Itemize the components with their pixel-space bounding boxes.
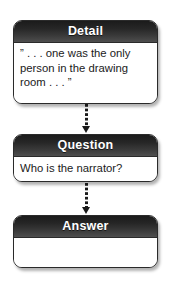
detail-text-line-1: ” . . . one was the only xyxy=(20,46,151,61)
connector-detail-to-question-arrow-icon xyxy=(82,104,91,134)
detail-text-line-2: person in the drawing xyxy=(20,61,151,76)
connector-question-to-answer-arrow-icon xyxy=(82,183,91,215)
detail-card-header: Detail xyxy=(14,21,157,43)
question-text-line-1: Who is the narrator? xyxy=(20,161,151,176)
connector-dotted-stem xyxy=(85,104,88,126)
connector-arrowhead-down-icon xyxy=(82,126,90,133)
connector-arrowhead-down-icon xyxy=(82,207,90,214)
connector-dotted-stem xyxy=(85,183,88,207)
question-card: Question Who is the narrator? xyxy=(13,134,158,182)
detail-card-body: ” . . . one was the only person in the d… xyxy=(14,43,157,104)
answer-card-header: Answer xyxy=(14,216,157,238)
flow-diagram: Detail ” . . . one was the only person i… xyxy=(0,0,173,289)
detail-card: Detail ” . . . one was the only person i… xyxy=(13,20,158,104)
question-card-header: Question xyxy=(14,135,157,157)
question-card-body: Who is the narrator? xyxy=(14,157,157,182)
detail-text-line-3: room . . . ” xyxy=(20,75,151,90)
answer-card-body[interactable] xyxy=(14,238,157,268)
answer-card: Answer xyxy=(13,215,158,268)
